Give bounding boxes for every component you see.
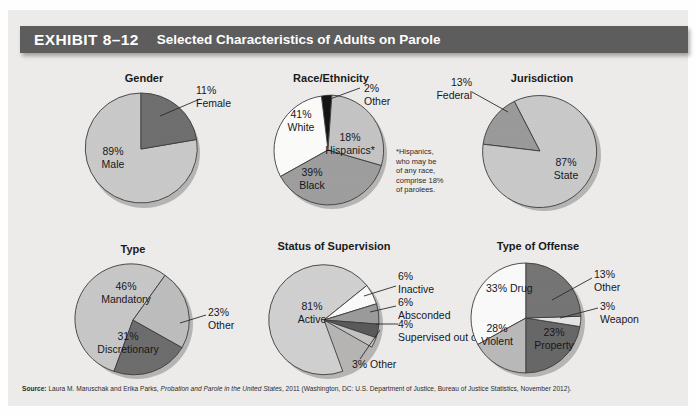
label-jurisdiction-federal-pct: 13% [451,76,472,88]
label-status-other-pct: 3% Other [352,358,396,370]
chart-title-jurisdiction: Jurisdiction [496,72,588,84]
label-race-other-name: Other [364,95,390,107]
label-race-hispanics: 18% Hispanics* [312,131,388,156]
label-offense-property: 23% Property [524,326,584,351]
race-footnote-line3: of any race, [396,166,435,175]
label-type-discretionary-pct: 31% [117,330,138,342]
leader-line-status-inactive [364,284,400,298]
label-offense-property-name: Property [534,339,574,351]
exhibit-header-band: EXHIBIT 8–12 Selected Characteristics of… [20,26,688,53]
race-footnote-line2: who may be [396,157,436,166]
label-race-other-pct: 2% [364,82,379,94]
label-offense-other-name: Other [594,281,620,293]
race-footnote-line4: comprise 18% [396,176,444,185]
chart-title-gender: Gender [104,72,184,84]
label-type-other-name: Other [208,319,234,331]
label-status-inactive-name: Inactive [398,283,434,295]
label-gender-female-name: Female [196,97,231,109]
label-race-hispanics-name: Hispanics* [325,144,375,156]
label-type-other: 23% Other [208,306,234,331]
label-race-white: 41% White [278,108,324,133]
source-authors: Laura M. Maruschak and Erika Parks, [47,385,161,392]
label-race-black-pct: 39% [301,166,322,178]
label-offense-other: 13% Other [594,268,620,293]
label-race-white-pct: 41% [290,108,311,120]
race-footnote-line1: *Hispanics, [396,147,434,156]
label-status-active: 81% Active [288,300,336,325]
leader-line-race-other [330,86,366,102]
leader-line-offense-weapon [560,306,602,320]
label-offense-weapon-name: Weapon [600,313,639,325]
label-gender-male-pct: 89% [102,145,123,157]
label-gender-female: 11% Female [196,84,231,109]
label-status-other: 3% Other [352,358,396,371]
label-race-white-name: White [288,121,315,133]
leader-line-offense-other [552,276,596,302]
source-work-title: Probation and Parole in the United State… [161,385,282,392]
label-offense-drug: 33% Drug [486,282,533,295]
label-offense-property-pct: 23% [543,326,564,338]
label-race-black-name: Black [299,179,325,191]
label-jurisdiction-federal-name: Federal [436,89,472,101]
leader-line-status-supervised [376,320,400,330]
label-status-inactive-pct: 6% [398,270,413,282]
label-type-other-pct: 23% [208,306,229,318]
label-type-mandatory-pct: 46% [115,280,136,292]
race-footnote-line5: of parolees. [396,185,435,194]
label-status-active-name: Active [298,313,327,325]
source-rest: , 2011 (Washington, DC: U.S. Department … [282,385,572,392]
label-status-active-pct: 81% [301,300,322,312]
leader-line-type-other [180,314,210,326]
label-race-other: 2% Other [364,82,390,107]
label-gender-male-name: Male [102,158,125,170]
exhibit-title: Selected Characteristics of Adults on Pa… [157,32,441,47]
label-type-mandatory-name: Mandatory [101,293,151,305]
label-offense-weapon: 3% Weapon [600,300,639,325]
source-line: Source: Laura M. Maruschak and Erika Par… [22,384,672,393]
label-status-absconded-pct: 6% [398,296,413,308]
label-type-mandatory: 46% Mandatory [88,280,164,305]
label-jurisdiction-state-pct: 87% [555,156,576,168]
exhibit-number-label: EXHIBIT 8–12 [34,31,139,49]
label-jurisdiction-state: 87% State [542,156,590,181]
label-gender-female-pct: 11% [196,84,216,96]
chart-title-type-of-offense: Type of Offense [480,240,596,252]
race-footnote: *Hispanics, who may be of any race, comp… [396,147,444,195]
label-jurisdiction-federal: 13% Federal [424,76,472,101]
label-offense-other-pct: 13% [594,268,615,280]
label-race-hispanics-pct: 18% [339,131,360,143]
chart-title-type: Type [98,243,168,255]
label-offense-weapon-pct: 3% [600,300,615,312]
source-label: Source: [22,385,47,392]
label-type-discretionary-name: Discretionary [97,343,158,355]
label-offense-violent-pct: 28% [486,322,507,334]
label-offense-violent-name: Violent [481,335,513,347]
label-type-discretionary: 31% Discretionary [86,330,170,355]
leader-line-status-absconded [370,304,400,314]
leader-line-jurisdiction-federal [466,88,510,114]
chart-title-status-of-supervision: Status of Supervision [264,240,404,252]
label-offense-violent: 28% Violent [472,322,522,347]
label-status-supervised-pct: 4% [398,318,413,330]
label-race-black: 39% Black [288,166,336,191]
label-offense-drug-pct: 33% Drug [486,282,533,294]
label-jurisdiction-state-name: State [554,169,579,181]
label-status-inactive: 6% Inactive [398,270,434,295]
label-gender-male: 89% Male [88,145,138,170]
